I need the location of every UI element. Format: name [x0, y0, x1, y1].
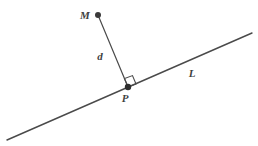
segment-d-label: d: [97, 50, 103, 62]
geometry-diagram: M d P L: [0, 0, 258, 146]
line-l-label: L: [188, 67, 196, 79]
point-p-dot: [125, 84, 131, 90]
point-m-dot: [95, 12, 101, 18]
point-m-label: M: [79, 9, 91, 21]
geometry-figure: M d P L: [0, 0, 258, 146]
point-p-label: P: [122, 92, 129, 104]
